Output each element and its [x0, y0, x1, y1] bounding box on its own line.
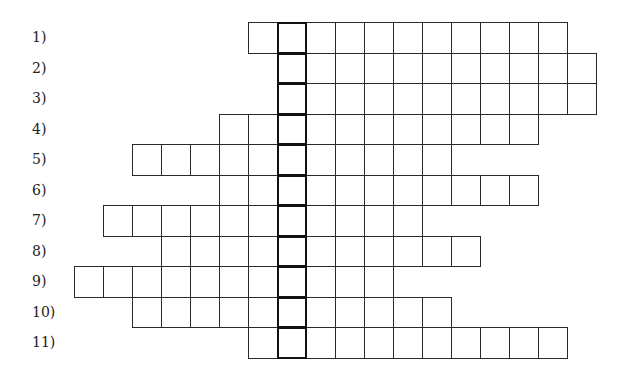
grid-cell[interactable]	[306, 144, 336, 176]
grid-cell[interactable]	[161, 236, 191, 268]
grid-cell[interactable]	[306, 114, 336, 146]
grid-cell[interactable]	[335, 22, 365, 54]
grid-cell[interactable]	[393, 205, 423, 237]
grid-cell[interactable]	[567, 53, 597, 85]
grid-cell[interactable]	[422, 327, 452, 359]
grid-cell[interactable]	[393, 144, 423, 176]
grid-cell[interactable]	[161, 144, 191, 176]
grid-cell[interactable]	[451, 83, 481, 115]
grid-cell[interactable]	[248, 205, 278, 237]
grid-cell[interactable]	[393, 22, 423, 54]
grid-cell[interactable]	[219, 114, 249, 146]
grid-cell[interactable]	[364, 327, 394, 359]
grid-cell[interactable]	[335, 114, 365, 146]
grid-cell[interactable]	[393, 83, 423, 115]
grid-cell[interactable]	[190, 297, 220, 329]
grid-cell[interactable]	[248, 175, 278, 207]
grid-cell[interactable]	[335, 205, 365, 237]
grid-cell[interactable]	[451, 236, 481, 268]
grid-cell[interactable]	[364, 175, 394, 207]
grid-cell[interactable]	[161, 297, 191, 329]
grid-cell[interactable]	[248, 297, 278, 329]
grid-cell[interactable]	[306, 205, 336, 237]
grid-cell[interactable]	[219, 144, 249, 176]
keyword-cell[interactable]	[277, 205, 307, 237]
grid-cell[interactable]	[335, 297, 365, 329]
grid-cell[interactable]	[306, 297, 336, 329]
grid-cell[interactable]	[161, 205, 191, 237]
keyword-cell[interactable]	[277, 175, 307, 207]
grid-cell[interactable]	[103, 266, 133, 298]
keyword-cell[interactable]	[277, 236, 307, 268]
keyword-cell[interactable]	[277, 266, 307, 298]
grid-cell[interactable]	[480, 327, 510, 359]
grid-cell[interactable]	[509, 22, 539, 54]
grid-cell[interactable]	[393, 175, 423, 207]
grid-cell[interactable]	[509, 114, 539, 146]
grid-cell[interactable]	[335, 175, 365, 207]
grid-cell[interactable]	[451, 327, 481, 359]
grid-cell[interactable]	[335, 53, 365, 85]
grid-cell[interactable]	[422, 297, 452, 329]
grid-cell[interactable]	[306, 236, 336, 268]
keyword-cell[interactable]	[277, 297, 307, 329]
grid-cell[interactable]	[364, 53, 394, 85]
grid-cell[interactable]	[248, 22, 278, 54]
grid-cell[interactable]	[422, 236, 452, 268]
grid-cell[interactable]	[132, 205, 162, 237]
grid-cell[interactable]	[480, 53, 510, 85]
grid-cell[interactable]	[219, 297, 249, 329]
keyword-cell[interactable]	[277, 114, 307, 146]
grid-cell[interactable]	[219, 236, 249, 268]
grid-cell[interactable]	[219, 175, 249, 207]
grid-cell[interactable]	[422, 22, 452, 54]
grid-cell[interactable]	[480, 22, 510, 54]
grid-cell[interactable]	[335, 327, 365, 359]
grid-cell[interactable]	[480, 175, 510, 207]
grid-cell[interactable]	[335, 144, 365, 176]
grid-cell[interactable]	[422, 53, 452, 85]
grid-cell[interactable]	[219, 205, 249, 237]
grid-cell[interactable]	[364, 22, 394, 54]
grid-cell[interactable]	[364, 236, 394, 268]
grid-cell[interactable]	[103, 205, 133, 237]
grid-cell[interactable]	[248, 266, 278, 298]
grid-cell[interactable]	[248, 327, 278, 359]
keyword-cell[interactable]	[277, 144, 307, 176]
grid-cell[interactable]	[480, 114, 510, 146]
grid-cell[interactable]	[132, 297, 162, 329]
grid-cell[interactable]	[248, 114, 278, 146]
keyword-cell[interactable]	[277, 53, 307, 85]
grid-cell[interactable]	[190, 236, 220, 268]
grid-cell[interactable]	[451, 114, 481, 146]
grid-cell[interactable]	[364, 297, 394, 329]
grid-cell[interactable]	[509, 327, 539, 359]
grid-cell[interactable]	[393, 297, 423, 329]
grid-cell[interactable]	[480, 83, 510, 115]
grid-cell[interactable]	[248, 144, 278, 176]
grid-cell[interactable]	[335, 236, 365, 268]
keyword-cell[interactable]	[277, 83, 307, 115]
grid-cell[interactable]	[451, 175, 481, 207]
grid-cell[interactable]	[422, 114, 452, 146]
grid-cell[interactable]	[132, 144, 162, 176]
grid-cell[interactable]	[364, 144, 394, 176]
grid-cell[interactable]	[451, 22, 481, 54]
grid-cell[interactable]	[74, 266, 104, 298]
grid-cell[interactable]	[567, 83, 597, 115]
grid-cell[interactable]	[451, 53, 481, 85]
grid-cell[interactable]	[422, 83, 452, 115]
grid-cell[interactable]	[538, 83, 568, 115]
grid-cell[interactable]	[422, 144, 452, 176]
grid-cell[interactable]	[306, 266, 336, 298]
grid-cell[interactable]	[306, 53, 336, 85]
grid-cell[interactable]	[364, 266, 394, 298]
grid-cell[interactable]	[538, 53, 568, 85]
grid-cell[interactable]	[538, 22, 568, 54]
grid-cell[interactable]	[393, 53, 423, 85]
grid-cell[interactable]	[248, 236, 278, 268]
grid-cell[interactable]	[393, 327, 423, 359]
grid-cell[interactable]	[364, 114, 394, 146]
grid-cell[interactable]	[509, 175, 539, 207]
grid-cell[interactable]	[190, 144, 220, 176]
